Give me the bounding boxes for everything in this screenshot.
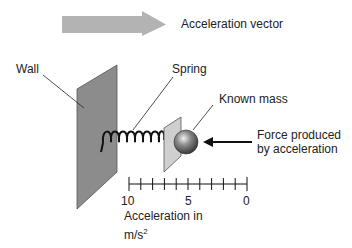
spring-leader xyxy=(133,77,173,130)
mass-leader xyxy=(193,105,213,130)
force-arrow-icon xyxy=(203,137,252,147)
accelerometer-diagram: Acceleration vector Wall Spring Known ma… xyxy=(0,0,352,248)
unit-text: m/s xyxy=(124,228,143,242)
acceleration-arrow-icon xyxy=(62,11,166,36)
force-label-line2: by acceleration xyxy=(257,143,338,156)
acceleration-vector-label: Acceleration vector xyxy=(181,18,283,31)
acceleration-scale xyxy=(129,177,247,191)
known-mass-ball xyxy=(174,130,198,154)
known-mass-label: Known mass xyxy=(219,93,288,106)
scale-tick-0: 0 xyxy=(243,195,250,208)
scale-tick-5: 5 xyxy=(185,195,192,208)
spring-label: Spring xyxy=(172,63,207,76)
scale-tick-10: 10 xyxy=(121,195,134,208)
scale-axis-label: Acceleration in xyxy=(124,210,203,223)
wall-label: Wall xyxy=(16,63,39,76)
unit-exponent: 2 xyxy=(143,227,147,236)
force-label-line1: Force produced xyxy=(257,129,341,142)
scale-axis-unit: m/s2 xyxy=(124,225,148,242)
